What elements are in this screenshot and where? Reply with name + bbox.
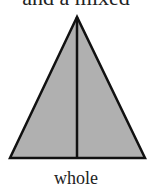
triangle-figure <box>0 0 152 189</box>
figure-label: whole <box>0 168 152 188</box>
